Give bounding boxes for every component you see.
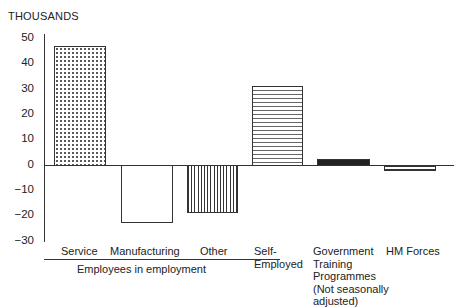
category-label-service: Service <box>61 245 98 258</box>
y-tick-30: 30 <box>0 82 34 94</box>
y-tick-minus-10: −10 <box>0 183 34 195</box>
category-label-government-training: Government Training Programmes (Not seas… <box>313 245 389 308</box>
group-label-employees: Employees in employment <box>77 263 206 275</box>
category-label-other: Other <box>200 245 228 258</box>
category-label-hm-forces: HM Forces <box>386 245 440 258</box>
bar-other <box>187 165 238 213</box>
y-tick-10: 10 <box>0 132 34 144</box>
y-tick-20: 20 <box>0 107 34 119</box>
y-tick-0: 0 <box>0 158 34 170</box>
category-label-self-employed: Self- Employed <box>254 245 303 270</box>
bar-service <box>54 46 106 166</box>
zero-baseline <box>44 165 454 166</box>
y-tick-minus-30: −30 <box>0 234 34 246</box>
category-label-manufacturing: Manufacturing <box>110 245 180 258</box>
bar-manufacturing <box>121 165 173 223</box>
y-tick-50: 50 <box>0 31 34 43</box>
y-tick-minus-20: −20 <box>0 208 34 220</box>
y-tick-40: 40 <box>0 56 34 68</box>
bar-self-employed <box>252 86 303 166</box>
group-bracket-line <box>44 259 280 260</box>
y-axis-unit-label: THOUSANDS <box>8 10 79 22</box>
y-axis-line <box>44 34 45 242</box>
